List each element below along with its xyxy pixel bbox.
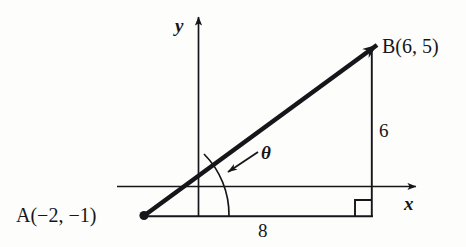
horizontal-leg-label: 8 — [258, 221, 268, 240]
vector-AB — [145, 45, 377, 215]
x-axis-label: x — [404, 194, 414, 213]
point-a-dot-icon — [139, 211, 148, 220]
vertical-leg-label: 6 — [379, 121, 389, 140]
theta-leader-arrow-icon — [228, 152, 258, 172]
right-angle-icon — [355, 200, 371, 216]
theta-label: θ — [261, 143, 271, 162]
point-b-label: B(6, 5) — [382, 36, 439, 56]
vector-diagram-figure: y x B(6, 5) A(−2, −1) 6 8 θ — [0, 0, 466, 247]
point-a-label: A(−2, −1) — [16, 205, 96, 225]
y-axis-label: y — [175, 16, 183, 35]
